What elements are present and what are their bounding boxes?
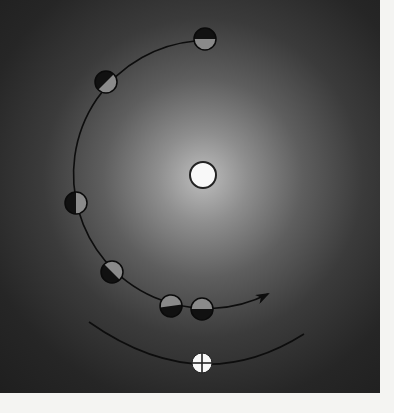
moon-phase-icon <box>65 192 87 214</box>
caption <box>0 400 380 413</box>
moon-phase-icon <box>159 294 184 319</box>
moon-phase-icon <box>90 66 121 97</box>
earth-icon <box>192 353 212 373</box>
moon-phase-icon <box>191 298 213 320</box>
moon-phase-icon <box>194 28 216 50</box>
moon-phase-icon <box>96 256 127 287</box>
diagram-panel <box>0 0 380 393</box>
sun-icon <box>190 162 216 188</box>
moon-phase-diagram <box>0 0 380 393</box>
